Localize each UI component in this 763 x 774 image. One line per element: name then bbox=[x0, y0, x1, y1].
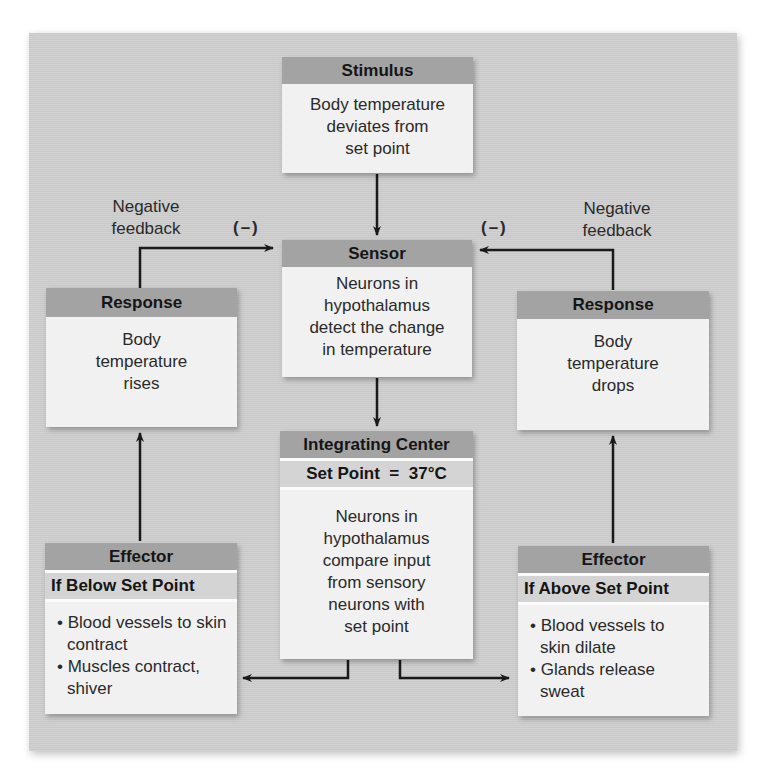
arrow-center-to-right-effector bbox=[400, 660, 509, 678]
response-left-text: Body temperature rises bbox=[46, 317, 237, 395]
effector-right-bullet: • Glands release sweat bbox=[530, 659, 689, 703]
stimulus-text: Body temperature deviates from set point bbox=[282, 84, 473, 160]
response-right-header: Response bbox=[517, 291, 709, 319]
arrow-center-to-left-effector bbox=[243, 660, 348, 678]
set-point-subheader: Set Point = 37°C bbox=[280, 458, 473, 490]
effector-left-list: • Blood vessels to skin contract • Muscl… bbox=[45, 602, 237, 700]
effector-right-list: • Blood vessels to skin dilate • Glands … bbox=[518, 605, 709, 703]
response-left-box: Response Body temperature rises bbox=[46, 288, 237, 427]
sensor-text: Neurons in hypothalamus detect the chang… bbox=[282, 267, 472, 361]
integrating-center-box: Integrating Center Set Point = 37°C Neur… bbox=[280, 431, 473, 659]
negative-feedback-right-label: Negative feedback bbox=[567, 198, 667, 242]
effector-left-bullet: • Blood vessels to skin contract bbox=[57, 612, 229, 656]
arrow-right-negative-feedback bbox=[480, 250, 613, 290]
negative-sign-right: (–) bbox=[481, 218, 508, 238]
integrating-center-text: Neurons in hypothalamus compare input fr… bbox=[280, 490, 473, 638]
arrow-left-negative-feedback bbox=[140, 248, 273, 288]
effector-left-bullet: • Muscles contract, shiver bbox=[57, 656, 229, 700]
sensor-header: Sensor bbox=[282, 240, 472, 267]
response-right-box: Response Body temperature drops bbox=[517, 291, 709, 430]
effector-right-header: Effector bbox=[518, 546, 709, 573]
effector-left-subheader: If Below Set Point bbox=[45, 570, 237, 602]
effector-right-bullet: • Blood vessels to skin dilate bbox=[530, 615, 689, 659]
effector-left-box: Effector If Below Set Point • Blood vess… bbox=[45, 543, 237, 714]
response-left-header: Response bbox=[46, 288, 237, 317]
integrating-center-header: Integrating Center bbox=[280, 431, 473, 458]
negative-feedback-left-label: Negative feedback bbox=[96, 196, 196, 240]
sensor-box: Sensor Neurons in hypothalamus detect th… bbox=[282, 240, 472, 377]
stimulus-box: Stimulus Body temperature deviates from … bbox=[282, 57, 473, 173]
effector-right-subheader: If Above Set Point bbox=[518, 573, 709, 605]
effector-left-header: Effector bbox=[45, 543, 237, 570]
response-right-text: Body temperature drops bbox=[517, 319, 709, 397]
stimulus-header: Stimulus bbox=[282, 57, 473, 84]
effector-right-box: Effector If Above Set Point • Blood vess… bbox=[518, 546, 709, 716]
negative-sign-left: (–) bbox=[233, 218, 260, 238]
